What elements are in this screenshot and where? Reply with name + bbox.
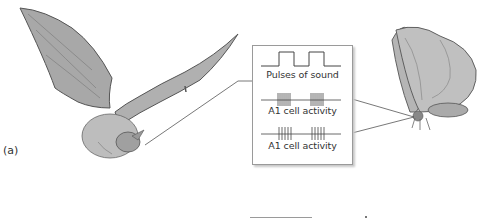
sound-pulse-trace: [261, 52, 341, 66]
a1-cell-activity-label-1: A1 cell activity: [253, 105, 352, 116]
panel-label: (a): [3, 144, 18, 157]
moth-connector-line-2: [352, 117, 414, 133]
a1-spike-trace-2: [261, 127, 341, 140]
a1-cell-activity-label-2: A1 cell activity: [253, 140, 352, 151]
bat-moth-echolocation-figure: (a): [0, 0, 485, 219]
bat-illustration: [20, 8, 238, 158]
next-panel-top-rule: [250, 217, 312, 218]
neural-response-inset: Pulses of sound A1 cell activity A1 cell…: [252, 45, 353, 165]
next-panel-mark: [365, 216, 367, 218]
illustration-layer: [0, 0, 485, 219]
moth-connector-line-1: [352, 99, 414, 117]
pulses-of-sound-label: Pulses of sound: [253, 69, 352, 80]
